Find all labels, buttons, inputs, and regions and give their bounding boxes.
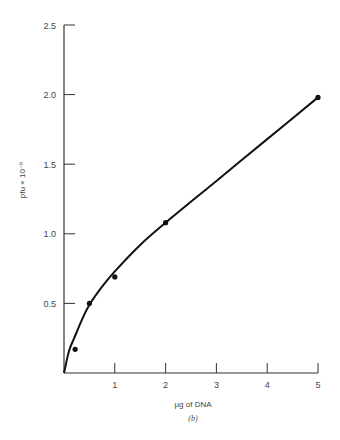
x-tick-label: 5 <box>315 380 320 390</box>
fitted-curve <box>64 97 318 373</box>
ticks: 0.51.01.52.02.512345 <box>43 21 320 391</box>
figure-caption: (b) <box>188 414 198 423</box>
chart: 0.51.01.52.02.512345 μg of DNA (b) pfu ×… <box>0 0 340 440</box>
y-tick-label: 0.5 <box>43 299 56 309</box>
data-points <box>73 95 321 352</box>
y-tick-label: 1.0 <box>43 229 56 239</box>
data-point <box>73 347 78 352</box>
x-tick-label: 3 <box>214 380 219 390</box>
x-tick-label: 2 <box>163 380 168 390</box>
x-tick-label: 4 <box>265 380 270 390</box>
curve-path <box>64 97 318 373</box>
y-tick-label: 2.0 <box>43 90 56 100</box>
x-axis-label: μg of DNA <box>174 400 212 409</box>
x-tick-label: 1 <box>112 380 117 390</box>
y-tick-label: 1.5 <box>43 160 56 170</box>
data-point <box>112 274 117 279</box>
y-axis-label: pfu × 10⁻⁹ <box>18 162 27 199</box>
data-point <box>315 95 320 100</box>
data-point <box>87 301 92 306</box>
y-tick-label: 2.5 <box>43 21 56 31</box>
axes <box>64 25 318 373</box>
data-point <box>163 220 168 225</box>
